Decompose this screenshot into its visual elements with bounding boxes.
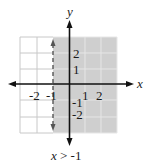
caption-inequality: > -1 bbox=[57, 148, 82, 163]
coordinate-plane bbox=[0, 0, 152, 168]
x-tick-neg2: -2 bbox=[29, 89, 40, 102]
y-tick-pos2: 2 bbox=[73, 47, 80, 60]
inequality-caption: x > -1 bbox=[51, 149, 81, 162]
x-tick-pos2: 2 bbox=[96, 89, 103, 102]
y-tick-neg2: -2 bbox=[72, 108, 83, 121]
y-tick-pos1: 1 bbox=[73, 63, 80, 76]
y-axis-label: y bbox=[67, 5, 73, 18]
x-tick-neg1: -1 bbox=[46, 89, 57, 102]
x-axis-label: x bbox=[137, 77, 143, 90]
x-tick-pos1: 1 bbox=[82, 89, 89, 102]
